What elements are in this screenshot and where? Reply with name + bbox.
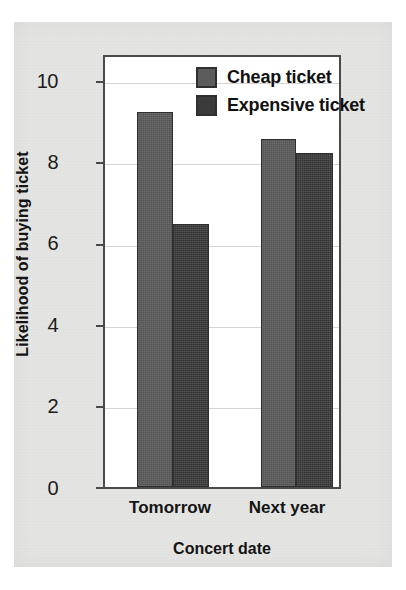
y-tick-mark-6 <box>96 244 103 246</box>
y-tick-mark-10 <box>96 81 103 83</box>
y-tick-mark-0 <box>96 487 103 489</box>
x-category-label-next-year: Next year <box>232 498 342 518</box>
bar-cheap-tomorrow <box>137 112 173 487</box>
legend-label-cheap-ticket: Cheap ticket <box>227 67 332 88</box>
plot-area <box>103 55 341 489</box>
figure-container: Likelihood of buying ticket 10 8 6 4 2 0 <box>0 0 406 590</box>
y-tick-mark-8 <box>96 162 103 164</box>
legend-swatch-cheap-ticket <box>196 67 217 88</box>
legend: Cheap ticket Expensive ticket <box>196 64 365 120</box>
legend-label-expensive-ticket: Expensive ticket <box>227 95 365 116</box>
plot-inner <box>105 57 339 487</box>
y-tick-label-0: 0 <box>18 477 58 500</box>
y-tick-label-10: 10 <box>18 70 58 93</box>
y-tick-mark-2 <box>96 406 103 408</box>
bar-expensive-next-year <box>296 153 333 487</box>
x-category-label-tomorrow: Tomorrow <box>110 498 230 518</box>
bar-cheap-next-year <box>261 139 296 487</box>
legend-item-expensive-ticket: Expensive ticket <box>196 92 365 118</box>
bar-expensive-tomorrow <box>173 224 209 487</box>
y-tick-label-4: 4 <box>18 314 58 337</box>
y-tick-label-6: 6 <box>18 232 58 255</box>
legend-swatch-expensive-ticket <box>196 95 217 116</box>
y-tick-label-8: 8 <box>18 151 58 174</box>
y-tick-mark-4 <box>96 325 103 327</box>
x-axis-title: Concert date <box>103 540 341 558</box>
legend-item-cheap-ticket: Cheap ticket <box>196 64 365 90</box>
y-tick-label-2: 2 <box>18 395 58 418</box>
